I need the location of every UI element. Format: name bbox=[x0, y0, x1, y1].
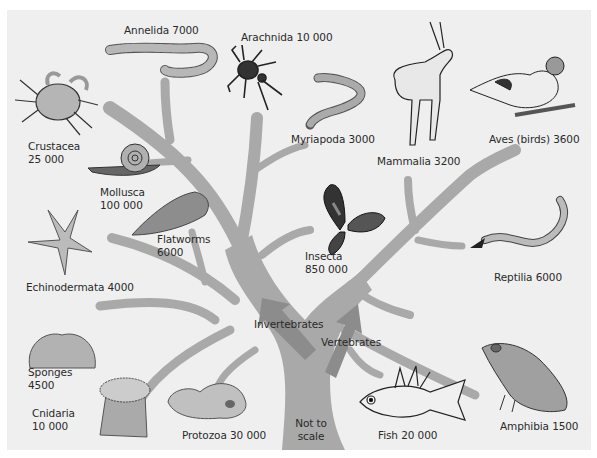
label-invertebrates: Invertebrates bbox=[254, 318, 323, 331]
spider-icon bbox=[228, 45, 282, 110]
label-crustacea: Crustacea25 000 bbox=[28, 140, 80, 166]
centipede-icon bbox=[310, 78, 361, 125]
frog-icon bbox=[482, 344, 567, 412]
label-amphibia: Amphibia 1500 bbox=[500, 420, 578, 433]
sea-anemone-icon bbox=[100, 378, 150, 437]
label-protozoa: Protozoa 30 000 bbox=[182, 429, 266, 442]
snake-icon bbox=[470, 200, 564, 248]
butterfly-icon bbox=[324, 185, 385, 255]
sponge-icon bbox=[29, 334, 95, 368]
gazelle-icon bbox=[394, 22, 453, 145]
not-to-scale-note: Not toscale bbox=[291, 417, 331, 443]
label-flatworms: Flatworms6000 bbox=[157, 233, 210, 259]
earthworm-icon bbox=[110, 48, 213, 73]
label-echinodermata: Echinodermata 4000 bbox=[26, 281, 134, 294]
crab-icon bbox=[15, 73, 98, 135]
label-mollusca: Mollusca100 000 bbox=[100, 186, 145, 212]
starfish-icon bbox=[28, 210, 92, 275]
label-vertebrates: Vertebrates bbox=[321, 336, 381, 349]
label-insecta: Insecta850 000 bbox=[305, 250, 348, 276]
label-reptilia: Reptilia 6000 bbox=[494, 271, 562, 284]
label-mammalia: Mammalia 3200 bbox=[377, 155, 460, 168]
label-fish: Fish 20 000 bbox=[378, 429, 437, 442]
label-annelida: Annelida 7000 bbox=[124, 24, 199, 37]
bird-icon bbox=[470, 57, 575, 115]
tree-of-life-illustration bbox=[0, 0, 597, 458]
label-aves: Aves (birds) 3600 bbox=[489, 133, 579, 146]
label-arachnida: Arachnida 10 000 bbox=[241, 31, 333, 44]
label-cnidaria: Cnidaria10 000 bbox=[32, 407, 75, 433]
snail-icon bbox=[88, 144, 160, 175]
label-myriapoda: Myriapoda 3000 bbox=[291, 133, 375, 146]
label-sponges: Sponges4500 bbox=[28, 366, 72, 392]
amoeba-icon bbox=[168, 384, 246, 419]
